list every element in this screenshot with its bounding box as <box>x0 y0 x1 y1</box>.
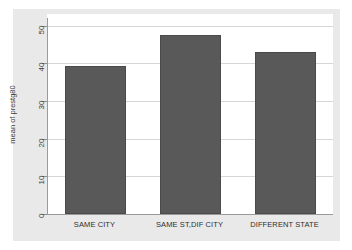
gridline-50 <box>48 26 333 27</box>
x-axis-label: SAME ST,DIF CITY <box>142 220 237 229</box>
bar[interactable] <box>255 52 316 214</box>
x-axis-label: SAME CITY <box>47 220 142 229</box>
y-tick-label-20: 20 <box>37 138 46 154</box>
bar[interactable] <box>65 66 126 214</box>
y-tick-label-0: 0 <box>37 214 46 230</box>
y-axis-title: mean of prestg80 <box>8 75 17 155</box>
y-tick-label-50: 50 <box>37 25 46 41</box>
bar[interactable] <box>160 35 221 214</box>
y-tick-label-40: 40 <box>37 63 46 79</box>
y-tick-label-30: 30 <box>37 100 46 116</box>
x-axis-label: DIFFERENT STATE <box>237 220 332 229</box>
bar-chart: mean of prestg80 01020304050 SAME CITYSA… <box>0 0 352 250</box>
y-tick-label-10: 10 <box>37 176 46 192</box>
plot-area <box>47 18 333 215</box>
